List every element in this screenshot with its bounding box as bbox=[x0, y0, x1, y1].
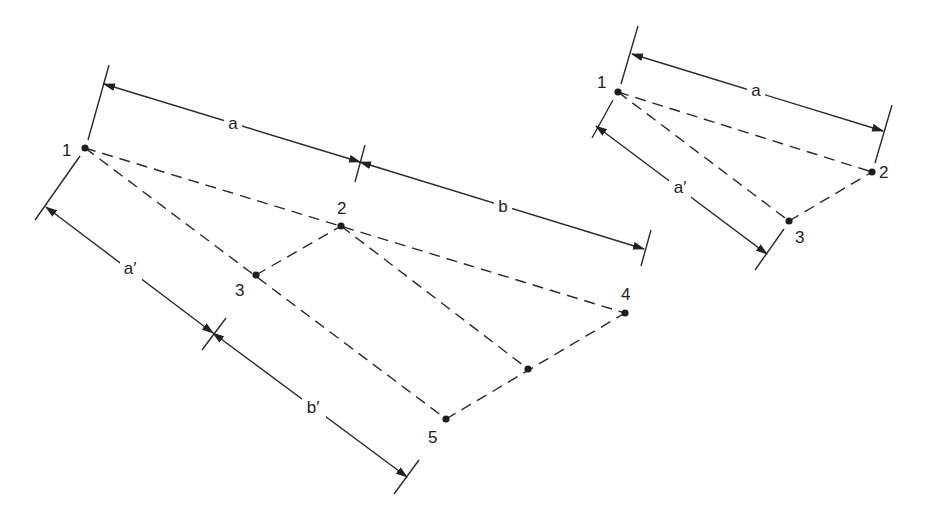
right-point-1 bbox=[614, 88, 621, 95]
point-2 bbox=[337, 222, 344, 229]
right-points bbox=[614, 88, 875, 224]
ext-line-1-lower bbox=[592, 100, 613, 138]
right-point-2 bbox=[868, 168, 875, 175]
label-point-2: 2 bbox=[337, 199, 346, 218]
line-5-4 bbox=[446, 313, 625, 419]
point-3 bbox=[252, 271, 259, 278]
ext-line-1-lower bbox=[35, 156, 80, 220]
ext-line-3 bbox=[755, 229, 784, 270]
right-label-point-3: 3 bbox=[795, 228, 804, 247]
dimension-diagram: a b a′ b′ 1 bbox=[0, 0, 925, 522]
label-b: b bbox=[498, 197, 507, 216]
dimension-b-prime: b′ bbox=[213, 333, 407, 477]
line-2-mid bbox=[341, 226, 528, 369]
right-label-point-1: 1 bbox=[597, 73, 606, 92]
ext-line-2 bbox=[875, 105, 892, 163]
label-a: a bbox=[228, 114, 238, 133]
dimension-a: a bbox=[104, 84, 360, 162]
left-point-labels: 1 2 3 4 5 bbox=[62, 141, 630, 447]
left-dashed-lines bbox=[85, 148, 625, 419]
line-1-5 bbox=[85, 148, 446, 419]
line-1-2 bbox=[618, 92, 872, 172]
line-1-3 bbox=[618, 92, 789, 221]
right-extension-lines bbox=[592, 26, 892, 270]
right-label-point-2: 2 bbox=[879, 163, 888, 182]
label-point-4: 4 bbox=[621, 285, 630, 304]
line-3-2 bbox=[789, 172, 872, 221]
label-point-1: 1 bbox=[62, 141, 71, 160]
left-points bbox=[81, 144, 628, 422]
label-a-prime: a′ bbox=[124, 259, 137, 278]
label-point-3: 3 bbox=[235, 281, 244, 300]
point-4 bbox=[621, 309, 628, 316]
right-label-a-prime: a′ bbox=[674, 178, 687, 197]
right-dashed-lines bbox=[618, 92, 872, 221]
right-dimension-a-prime: a′ bbox=[596, 126, 767, 254]
point-1 bbox=[81, 144, 88, 151]
right-dimension-a: a bbox=[632, 54, 883, 131]
right-label-a: a bbox=[751, 81, 761, 100]
label-b-prime: b′ bbox=[307, 398, 320, 417]
label-point-5: 5 bbox=[428, 428, 437, 447]
ext-line-1-upper bbox=[88, 65, 109, 140]
left-diagram: a b a′ b′ 1 bbox=[35, 65, 651, 494]
point-intermediate bbox=[524, 365, 531, 372]
line-3-2 bbox=[256, 226, 341, 275]
right-point-3 bbox=[785, 217, 792, 224]
right-diagram: a a′ 1 2 3 bbox=[592, 26, 892, 270]
dimension-b: b bbox=[360, 162, 644, 249]
line-1-4 bbox=[85, 148, 625, 313]
point-5 bbox=[442, 415, 449, 422]
